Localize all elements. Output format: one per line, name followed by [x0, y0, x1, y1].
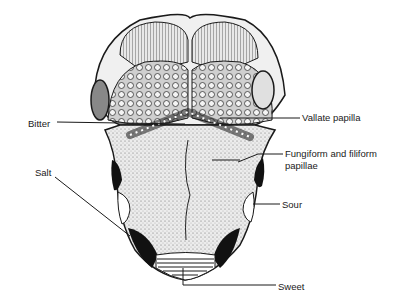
- tongue-body: [105, 112, 275, 280]
- sweet-region: [156, 253, 215, 281]
- right-tonsil: [252, 71, 274, 109]
- label-sour: Sour: [282, 199, 302, 210]
- label-salt: Salt: [35, 167, 51, 178]
- left-tonsil: [91, 80, 109, 120]
- label-fungiform-line1: Fungiform and filiform: [285, 148, 377, 159]
- label-sweet: Sweet: [278, 281, 304, 292]
- label-vallate-papilla: Vallate papilla: [302, 112, 360, 123]
- label-fungiform-line2: papillae: [285, 160, 318, 171]
- label-bitter: Bitter: [28, 118, 50, 129]
